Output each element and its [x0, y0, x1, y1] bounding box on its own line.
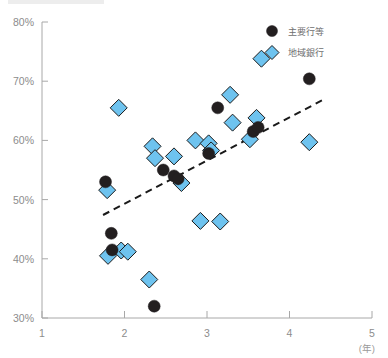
x-tick-label-4: 4	[287, 327, 293, 339]
data-point	[222, 86, 239, 103]
clipped-header-text	[8, 0, 104, 4]
y-tick-label-70: 70%	[13, 75, 34, 87]
series-major-banks-points	[100, 73, 316, 312]
data-point	[110, 99, 127, 116]
legend: 主要行等 地域銀行	[265, 26, 324, 60]
data-point	[303, 73, 315, 85]
y-tick-label-30: 30%	[13, 312, 34, 324]
legend-label-regional-banks: 地域銀行	[288, 47, 324, 58]
data-point	[212, 102, 224, 114]
legend-marker-circle	[267, 26, 278, 37]
x-tick-label-2: 2	[122, 327, 128, 339]
data-point	[187, 132, 204, 149]
x-axis-ticks: 1 2 3 4 5 (年)	[39, 311, 375, 354]
data-point	[106, 244, 118, 256]
x-tick-label-3: 3	[204, 327, 210, 339]
data-point	[166, 148, 183, 165]
data-point	[105, 227, 117, 239]
y-tick-label-50: 50%	[13, 194, 34, 206]
data-point	[148, 300, 160, 312]
y-tick-label-80: 80%	[13, 16, 34, 28]
y-tick-label-40: 40%	[13, 253, 34, 265]
y-axis-ticks: 80% 70% 60% 50% 40% 30%	[13, 16, 48, 324]
x-tick-label-1: 1	[39, 327, 45, 339]
data-point	[252, 121, 264, 133]
data-point	[172, 173, 184, 185]
data-point	[203, 147, 215, 159]
scatter-chart: 80% 70% 60% 50% 40% 30% 1 2 3 4 5 (年)	[0, 0, 388, 358]
y-tick-label-60: 60%	[13, 134, 34, 146]
data-point	[192, 212, 209, 229]
data-point	[147, 150, 164, 167]
data-point	[157, 164, 169, 176]
data-point	[141, 271, 158, 288]
series-regional-banks-points	[99, 50, 318, 288]
data-point	[224, 114, 241, 131]
x-axis-unit-label: (年)	[359, 343, 375, 354]
x-tick-label-5: 5	[369, 327, 375, 339]
data-point	[100, 176, 112, 188]
chart-canvas: 80% 70% 60% 50% 40% 30% 1 2 3 4 5 (年)	[0, 0, 388, 358]
data-point	[301, 134, 318, 151]
legend-label-major-banks: 主要行等	[288, 26, 324, 37]
data-point	[212, 213, 229, 230]
